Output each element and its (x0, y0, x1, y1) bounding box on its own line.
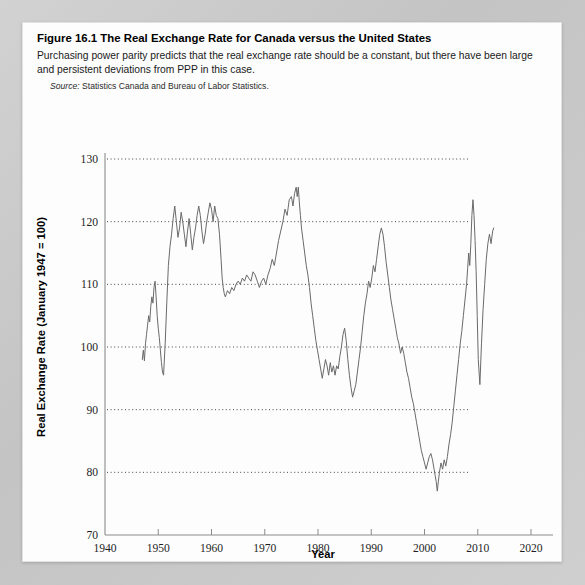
figure-description: Purchasing power parity predicts that th… (37, 49, 549, 76)
chart-plot-area: 708090100110120130 194019501960197019801… (23, 117, 563, 563)
source-label: Source: (50, 81, 80, 91)
figure-source: Source: Statistics Canada and Bureau of … (50, 80, 549, 92)
y-tick-label: 100 (81, 341, 99, 354)
y-tick-label: 120 (81, 216, 99, 229)
source-value: Statistics Canada and Bureau of Labor St… (82, 81, 269, 91)
x-tick-label: 2000 (413, 542, 436, 555)
y-tick-label: 130 (81, 153, 99, 166)
y-tick-label: 80 (86, 466, 98, 479)
y-tick-label: 90 (86, 404, 98, 417)
y-tick-labels-group: 708090100110120130 (81, 153, 99, 542)
exchange-rate-series-line (142, 187, 493, 491)
page-background: Figure 16.1 The Real Exchange Rate for C… (0, 0, 585, 585)
tickmarks-group (158, 529, 531, 535)
y-tick-label: 70 (86, 529, 98, 542)
y-tick-label: 110 (81, 278, 98, 291)
x-tick-label: 1990 (360, 542, 383, 555)
figure-number: Figure 16.1 (37, 32, 97, 44)
x-tick-label: 2010 (466, 542, 489, 555)
figure-title-text: The Real Exchange Rate for Canada versus… (100, 32, 431, 44)
x-axis-title: Year (311, 548, 335, 560)
figure-card: Figure 16.1 The Real Exchange Rate for C… (22, 22, 562, 562)
figure-caption-block: Figure 16.1 The Real Exchange Rate for C… (37, 31, 549, 92)
figure-title-line: Figure 16.1 The Real Exchange Rate for C… (37, 31, 549, 46)
y-axis-title: Real Exchange Rate (January 1947 = 100) (35, 217, 47, 437)
line-chart: 708090100110120130 194019501960197019801… (23, 117, 563, 563)
x-tick-label: 1950 (147, 542, 170, 555)
x-tick-label: 2020 (519, 542, 542, 555)
x-tick-label: 1940 (93, 542, 116, 555)
x-tick-label: 1960 (200, 542, 223, 555)
x-tick-label: 1970 (253, 542, 276, 555)
